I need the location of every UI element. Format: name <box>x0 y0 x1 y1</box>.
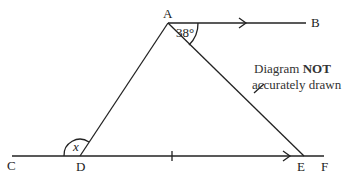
note-line-2: accurately drawn <box>252 77 342 92</box>
label-e: E <box>297 159 305 174</box>
label-d: D <box>76 159 85 174</box>
angle-a-label: 38° <box>176 25 194 40</box>
label-a: A <box>163 6 173 21</box>
line-ad <box>80 23 168 156</box>
note-bold: NOT <box>303 61 332 76</box>
note-line-1: Diagram NOT <box>254 61 331 76</box>
label-f: F <box>321 159 328 174</box>
label-c: C <box>7 158 16 173</box>
geometry-diagram: 38° x A B C D E F Diagram NOT accurately… <box>0 0 342 176</box>
label-b: B <box>311 15 320 30</box>
angle-x-label: x <box>72 139 79 154</box>
note-prefix: Diagram <box>254 61 303 76</box>
